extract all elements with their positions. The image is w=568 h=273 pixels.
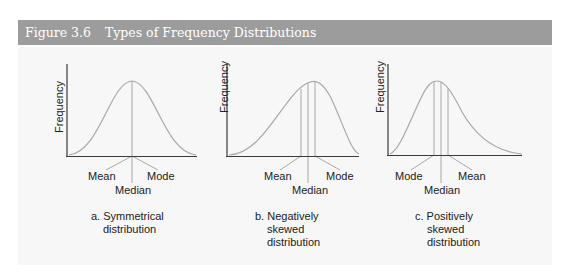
label-mean-b: Mean xyxy=(264,170,292,182)
y-axis-label-a: Frequency xyxy=(53,81,65,133)
caption-b: b. Negatively skewed distribution xyxy=(255,210,320,249)
label-mode-c: Mode xyxy=(395,170,423,182)
caption-c-line2: skewed xyxy=(415,223,480,236)
chart-negatively-skewed xyxy=(226,64,359,183)
caption-c-line3: distribution xyxy=(415,236,480,249)
caption-b-line3: distribution xyxy=(255,236,320,249)
caption-c: c. Positively skewed distribution xyxy=(415,210,480,249)
y-axis-label-c: Frequency xyxy=(374,61,386,113)
label-median-b: Median xyxy=(292,184,328,196)
label-mode-b: Mode xyxy=(326,170,354,182)
caption-a: a. Symmetrical distribution xyxy=(91,210,164,236)
chart-symmetrical xyxy=(66,64,197,183)
label-median-c: Median xyxy=(424,184,460,196)
label-mean-a: Mean xyxy=(88,170,116,182)
caption-a-line2: distribution xyxy=(91,223,164,236)
chart-positively-skewed xyxy=(387,64,522,183)
label-mode-a: Mode xyxy=(147,170,175,182)
caption-c-line1: c. Positively xyxy=(415,210,473,222)
caption-b-line1: b. Negatively xyxy=(255,210,319,222)
caption-a-line1: a. Symmetrical xyxy=(91,210,164,222)
label-median-a: Median xyxy=(115,184,151,196)
label-mean-c: Mean xyxy=(458,170,486,182)
caption-b-line2: skewed xyxy=(255,223,320,236)
y-axis-label-b: Frequency xyxy=(218,61,230,113)
